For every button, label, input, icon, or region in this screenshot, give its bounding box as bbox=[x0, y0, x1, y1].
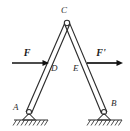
label-force-F-prime: F' bbox=[95, 47, 106, 58]
label-apex-C: C bbox=[61, 5, 68, 15]
diagram-background bbox=[0, 0, 130, 131]
apex-pin-joint-icon bbox=[64, 20, 69, 25]
label-support-B: B bbox=[111, 98, 117, 108]
label-point-D: D bbox=[50, 63, 58, 73]
structural-diagram: C A B D E F F' bbox=[0, 0, 130, 131]
label-force-F: F bbox=[23, 47, 31, 58]
figure-canvas: C A B D E F F' bbox=[0, 0, 130, 131]
label-point-E: E bbox=[72, 63, 79, 73]
label-support-A: A bbox=[12, 102, 19, 112]
